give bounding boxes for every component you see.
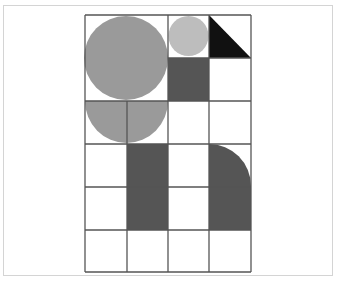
grid-diagram [0, 0, 342, 284]
small-circle [169, 16, 209, 56]
black-triangle [209, 15, 251, 58]
dark-square [168, 58, 209, 101]
large-circle [84, 16, 168, 100]
